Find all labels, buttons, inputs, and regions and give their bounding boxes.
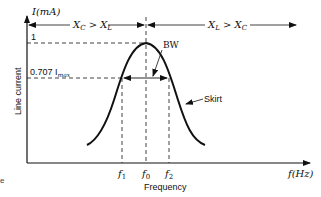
resonance-diagram: I(mA) XC > XL XL > XC 1 0.707 Imax BW Sk… xyxy=(0,0,321,197)
tick-f1: f1 xyxy=(117,168,126,181)
tick-f0: f0 xyxy=(141,168,150,181)
skirt-pointer xyxy=(186,99,203,104)
stray-character: e xyxy=(0,176,4,185)
region-right-label: XL > XC xyxy=(207,19,248,32)
y-axis-title: Line current xyxy=(13,67,23,115)
peak-level-label: 1 xyxy=(31,32,36,42)
half-power-label: 0.707 Imax xyxy=(30,67,71,78)
tick-f2: f2 xyxy=(164,168,173,181)
skirt-label: Skirt xyxy=(204,94,222,104)
y-axis-label: I(mA) xyxy=(31,6,61,17)
region-left-label: XC > XL xyxy=(72,19,112,32)
bw-label: BW xyxy=(163,40,180,50)
x-axis-label: f(Hz) xyxy=(287,168,314,179)
x-axis-title: Frequency xyxy=(144,182,187,192)
